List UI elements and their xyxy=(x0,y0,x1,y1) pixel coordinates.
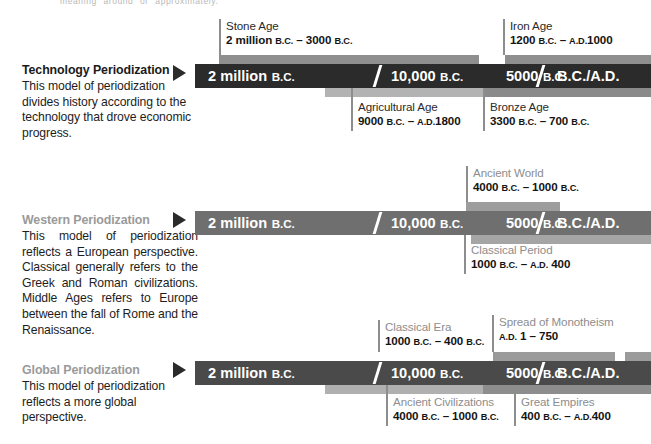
callout-range: 4000 B.C. – 1000 B.C. xyxy=(473,180,579,196)
callout-rule xyxy=(514,395,516,426)
callout-label: Classical Period xyxy=(471,243,570,257)
callout-rule xyxy=(219,19,221,51)
callout-spread-of-monotheism: Spread of Monotheism A.D. 1 – 750 xyxy=(492,315,614,344)
section-body-technology: This model of periodization divides hist… xyxy=(22,79,198,141)
band-notch-2 xyxy=(615,352,625,361)
callout-range: 4000 B.C. – 1000 B.C. xyxy=(393,409,499,425)
callout-ancient-civilizations: Ancient Civilizations 4000 B.C. – 1000 B… xyxy=(386,395,499,424)
callout-classical-period: Classical Period 1000 B.C. – A.D. 400 xyxy=(464,243,570,272)
band-notch xyxy=(479,55,505,64)
callout-classical-era: Classical Era 1000 B.C. – 400 B.C. xyxy=(378,320,484,349)
band-top-2 xyxy=(493,352,615,361)
callout-ancient-world: Ancient World 4000 B.C. – 1000 B.C. xyxy=(466,166,579,195)
callout-range: 400 B.C. – A.D.400 xyxy=(521,409,611,425)
scale-label-3: B.C./A.D. xyxy=(557,361,619,385)
band-top xyxy=(466,202,560,211)
scale-label-1: 10,000 B.C. xyxy=(391,64,463,88)
band-notch xyxy=(378,352,493,361)
callout-rule xyxy=(483,100,485,131)
callout-range: 9000 B.C. – A.D.1800 xyxy=(358,114,461,130)
section-description-western: Western Periodization This model of peri… xyxy=(22,213,198,338)
callout-label: Ancient World xyxy=(473,166,579,180)
scale-label-0: 2 million B.C. xyxy=(208,64,295,88)
section-body-western: This model of periodization reflects a E… xyxy=(22,229,198,338)
callout-iron-age: Iron Age 1200 B.C. – A.D.1000 xyxy=(503,19,613,48)
band-bottom-overlay xyxy=(483,385,651,394)
callout-label: Iron Age xyxy=(510,19,613,33)
callout-great-empires: Great Empires 400 B.C. – A.D.400 xyxy=(514,395,611,424)
periodization-figure: meaning "around" or "approximately." Tec… xyxy=(0,0,651,444)
callout-rule xyxy=(464,243,466,274)
scale-bar: 2 million B.C. 10,000 B.C. 5000 B.C. B.C… xyxy=(195,211,651,235)
band-top-3 xyxy=(625,352,651,361)
right-triangle-icon xyxy=(173,212,186,228)
callout-rule xyxy=(378,320,380,352)
callout-range: 3300 B.C. – 700 B.C. xyxy=(490,114,589,130)
callout-range: 1000 B.C. – A.D. 400 xyxy=(471,257,570,273)
callout-label: Ancient Civilizations xyxy=(393,395,499,409)
callout-label: Bronze Age xyxy=(490,100,589,114)
scale-label-3: B.C./A.D. xyxy=(557,211,619,235)
section-title-western: Western Periodization xyxy=(22,213,198,228)
section-description-global: Global Periodization This model of perio… xyxy=(22,363,198,426)
section-body-global: This model of periodization reflects a m… xyxy=(22,379,198,426)
scale-label-1: 10,000 B.C. xyxy=(391,211,463,235)
callout-rule xyxy=(386,395,388,426)
callout-rule xyxy=(492,315,494,352)
callout-label: Agricultural Age xyxy=(358,100,461,114)
section-description-technology: Technology Periodization This model of p… xyxy=(22,63,198,141)
scale-label-0: 2 million B.C. xyxy=(208,361,295,385)
scale-label-3: B.C./A.D. xyxy=(557,64,619,88)
callout-rule xyxy=(466,166,468,198)
right-triangle-icon xyxy=(173,362,186,378)
callout-agricultural-age: Agricultural Age 9000 B.C. – A.D.1800 xyxy=(351,100,461,129)
callout-label: Great Empires xyxy=(521,395,611,409)
callout-stone-age: Stone Age 2 million B.C. – 3000 B.C. xyxy=(219,19,352,48)
band-bottom-overlay xyxy=(483,88,651,97)
callout-range: 2 million B.C. – 3000 B.C. xyxy=(226,33,352,49)
callout-range: 1200 B.C. – A.D.1000 xyxy=(510,33,613,49)
section-title-global: Global Periodization xyxy=(22,363,198,378)
scale-bar: 2 million B.C. 10,000 B.C. 5000 B.C. B.C… xyxy=(195,361,651,385)
band-top xyxy=(219,55,651,64)
callout-range: 1000 B.C. – 400 B.C. xyxy=(385,334,484,350)
callout-label: Classical Era xyxy=(385,320,484,334)
scale-label-0: 2 million B.C. xyxy=(208,211,295,235)
scale-bar: 2 million B.C. 10,000 B.C. 5000 B.C. B.C… xyxy=(195,64,651,88)
right-triangle-icon xyxy=(173,65,186,81)
callout-rule xyxy=(351,100,353,131)
callout-label: Spread of Monotheism xyxy=(499,315,614,329)
section-title-technology: Technology Periodization xyxy=(22,63,198,78)
callout-bronze-age: Bronze Age 3300 B.C. – 700 B.C. xyxy=(483,100,589,129)
callout-label: Stone Age xyxy=(226,19,352,33)
callout-range: A.D. 1 – 750 xyxy=(499,329,614,345)
callout-rule xyxy=(503,19,505,51)
cropped-running-text: meaning "around" or "approximately." xyxy=(60,0,300,8)
scale-label-1: 10,000 B.C. xyxy=(391,361,463,385)
